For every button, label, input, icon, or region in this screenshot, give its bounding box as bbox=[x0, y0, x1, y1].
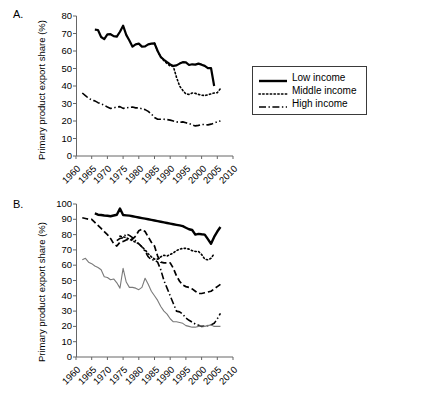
legend-line-swatch bbox=[258, 85, 288, 96]
panel-a-legend: Low incomeMiddle incomeHigh income bbox=[252, 66, 367, 115]
y-tick-label: 20 bbox=[46, 322, 72, 332]
y-tick-label: 40 bbox=[46, 291, 72, 301]
legend-label: High income bbox=[292, 98, 348, 109]
panel-a-plot-area bbox=[76, 16, 233, 156]
panel-b-label: B. bbox=[13, 198, 23, 210]
legend-line-swatch bbox=[258, 72, 288, 83]
panel-a-label: A. bbox=[13, 8, 23, 20]
legend-label: Middle income bbox=[292, 85, 356, 96]
panel-a-y-tick-labels: 01020304050607080 bbox=[46, 16, 72, 156]
y-tick-label: 30 bbox=[46, 306, 72, 316]
legend-label: Low income bbox=[292, 72, 345, 83]
y-tick-label: 0 bbox=[46, 352, 72, 362]
y-tick-label: 40 bbox=[46, 81, 72, 91]
legend-item[interactable]: Middle income bbox=[258, 84, 360, 97]
y-tick-label: 90 bbox=[46, 215, 72, 225]
y-tick-label: 20 bbox=[46, 116, 72, 126]
y-tick-label: 60 bbox=[46, 46, 72, 56]
legend-item[interactable]: High income bbox=[258, 97, 360, 110]
y-tick-label: 50 bbox=[46, 64, 72, 74]
plot-a-svg bbox=[76, 16, 233, 156]
series-line-middle-east-north-africa bbox=[95, 209, 221, 244]
y-tick-label: 70 bbox=[46, 29, 72, 39]
y-tick-label: 10 bbox=[46, 134, 72, 144]
y-tick-label: 30 bbox=[46, 99, 72, 109]
legend-line-swatch bbox=[258, 98, 288, 109]
panel-b-plot-area bbox=[76, 204, 233, 357]
y-tick-label: 50 bbox=[46, 276, 72, 286]
y-tick-label: 100 bbox=[46, 199, 72, 209]
panel-b-x-tick-labels: 1960196519701975198019851990199520002005… bbox=[76, 359, 233, 399]
y-tick-label: 80 bbox=[46, 230, 72, 240]
series-line-latin-america-caribbean bbox=[82, 218, 220, 294]
y-tick-label: 80 bbox=[46, 11, 72, 21]
panel-b: B. Primary product export share (%) 0102… bbox=[0, 190, 423, 399]
plot-b-svg bbox=[76, 204, 233, 357]
legend-item[interactable]: Low income bbox=[258, 71, 360, 84]
y-tick-label: 70 bbox=[46, 245, 72, 255]
panel-b-y-tick-labels: 0102030405060708090100 bbox=[46, 204, 72, 357]
series-line-east-asia-pacific bbox=[117, 234, 221, 327]
panel-a: A. Primary product export share (%) 0102… bbox=[0, 0, 423, 190]
series-line-low-income bbox=[95, 26, 214, 86]
y-tick-label: 10 bbox=[46, 337, 72, 347]
series-line-sub-saharan-africa bbox=[120, 236, 214, 260]
y-tick-label: 0 bbox=[46, 151, 72, 161]
y-tick-label: 60 bbox=[46, 260, 72, 270]
series-line-high-income bbox=[82, 93, 220, 126]
